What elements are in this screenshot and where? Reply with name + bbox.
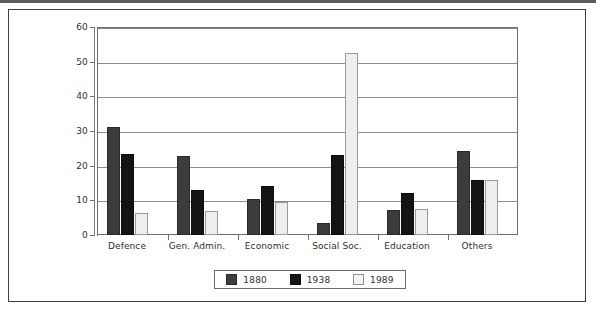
bar-1880-defence — [107, 127, 120, 236]
bars-layer — [98, 27, 518, 235]
x-tick-label-gen-admin: Gen. Admin. — [169, 241, 226, 251]
bar-1938-economic — [261, 186, 274, 235]
x-tick-label-education: Education — [384, 241, 430, 251]
y-tick-label-20: 20 — [60, 161, 88, 171]
bar-1989-social-soc — [345, 53, 358, 235]
y-tick-label-40: 40 — [60, 91, 88, 101]
bar-1880-social-soc — [317, 223, 330, 235]
bar-1989-education — [415, 209, 428, 235]
bar-group-education — [387, 27, 428, 235]
y-tick-label-10: 10 — [60, 195, 88, 205]
legend-item-1938: 1938 — [290, 274, 331, 285]
bar-1989-others — [485, 180, 498, 235]
x-tick-mark-2 — [238, 235, 239, 240]
bar-1989-economic — [275, 202, 288, 235]
bar-group-others — [457, 27, 498, 235]
y-tick-mark-30 — [90, 131, 95, 132]
legend-label-1880: 1880 — [243, 275, 267, 285]
bar-chart: 0102030405060 DefenceGen. Admin.Economic… — [0, 0, 596, 316]
legend-swatch-1938 — [290, 274, 301, 285]
bar-group-economic — [247, 27, 288, 235]
x-tick-mark-1 — [168, 235, 169, 240]
y-tick-mark-20 — [90, 166, 95, 167]
x-tick-mark-5 — [448, 235, 449, 240]
x-tick-label-economic: Economic — [245, 241, 289, 251]
x-tick-label-defence: Defence — [108, 241, 146, 251]
x-tick-mark-3 — [308, 235, 309, 240]
bar-1880-others — [457, 151, 470, 235]
bar-1880-education — [387, 210, 400, 235]
bar-1938-others — [471, 180, 484, 235]
legend-item-1989: 1989 — [353, 274, 394, 285]
y-tick-mark-60 — [90, 27, 95, 28]
bar-1880-economic — [247, 199, 260, 235]
y-tick-label-50: 50 — [60, 57, 88, 67]
bar-1989-defence — [135, 213, 148, 235]
bar-group-gen-admin — [177, 27, 218, 235]
x-tick-mark-4 — [378, 235, 379, 240]
legend-label-1989: 1989 — [370, 275, 394, 285]
legend-swatch-1880 — [226, 274, 237, 285]
bar-1938-gen-admin — [191, 190, 204, 235]
bar-1880-gen-admin — [177, 156, 190, 235]
y-tick-mark-40 — [90, 96, 95, 97]
y-tick-label-60: 60 — [60, 22, 88, 32]
y-tick-mark-10 — [90, 200, 95, 201]
legend-label-1938: 1938 — [307, 275, 331, 285]
bar-group-defence — [107, 27, 148, 235]
y-tick-mark-0 — [90, 235, 95, 236]
legend-swatch-1989 — [353, 274, 364, 285]
bar-group-social-soc — [317, 27, 358, 235]
bar-1938-defence — [121, 154, 134, 235]
x-tick-label-social-soc: Social Soc. — [312, 241, 362, 251]
y-tick-mark-50 — [90, 62, 95, 63]
bar-1938-education — [401, 193, 414, 235]
y-tick-label-30: 30 — [60, 126, 88, 136]
x-tick-label-others: Others — [462, 241, 493, 251]
bar-1989-gen-admin — [205, 211, 218, 235]
chart-legend: 1880 1938 1989 — [214, 270, 406, 289]
y-tick-label-0: 0 — [60, 230, 88, 240]
legend-item-1880: 1880 — [226, 274, 267, 285]
screenshot-root: 0102030405060 DefenceGen. Admin.Economic… — [0, 0, 596, 316]
bar-1938-social-soc — [331, 155, 344, 235]
